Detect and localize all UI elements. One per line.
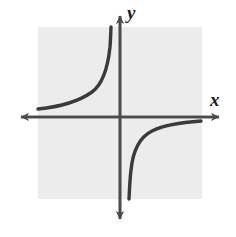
figure-container: y x: [0, 0, 236, 237]
graph-canvas: [0, 0, 236, 237]
y-axis-label: y: [127, 3, 135, 22]
x-axis-label: x: [210, 90, 220, 109]
